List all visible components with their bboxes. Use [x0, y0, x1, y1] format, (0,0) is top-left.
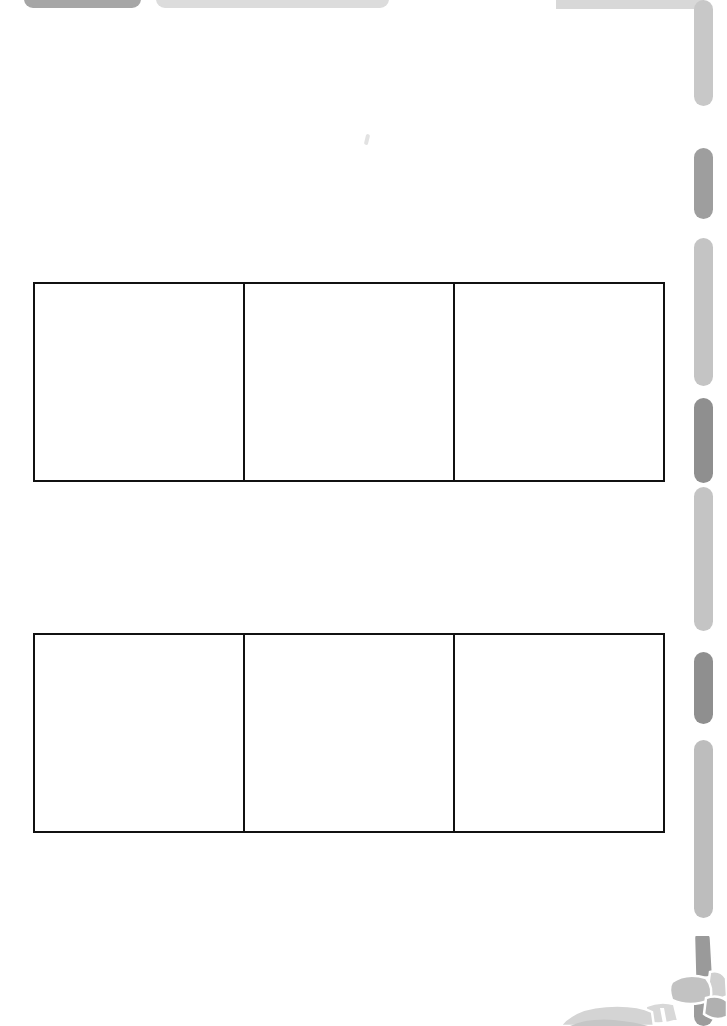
top-rail [556, 0, 704, 9]
table-top-body [34, 283, 664, 481]
stray-mark [364, 134, 371, 146]
margin-bar-5[interactable] [694, 487, 713, 631]
margin-bar-6[interactable] [694, 652, 713, 724]
page-canvas [0, 0, 727, 1026]
table-row [34, 634, 664, 832]
table-cell[interactable] [244, 634, 454, 832]
margin-bar-3[interactable] [694, 238, 713, 386]
table-bottom-body [34, 634, 664, 832]
table-cell[interactable] [454, 634, 664, 832]
margin-bar-4[interactable] [694, 398, 713, 483]
table-bottom [33, 633, 665, 833]
table-cell[interactable] [454, 283, 664, 481]
table-cell[interactable] [244, 283, 454, 481]
illustration-svg [560, 936, 727, 1026]
table-cell[interactable] [34, 283, 244, 481]
character-illustration-fragment [560, 936, 727, 1026]
margin-bar-7[interactable] [694, 740, 713, 918]
margin-bar-2[interactable] [694, 148, 713, 219]
illustration-knuckle-lower [704, 997, 727, 1019]
top-tab-dark[interactable] [24, 0, 141, 8]
table-row [34, 283, 664, 481]
table-cell[interactable] [34, 634, 244, 832]
margin-bar-1[interactable] [694, 0, 713, 106]
top-tab-light[interactable] [156, 0, 389, 8]
table-top [33, 282, 665, 482]
